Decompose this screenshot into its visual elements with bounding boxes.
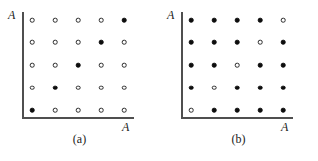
open-marker xyxy=(53,40,58,45)
open-marker xyxy=(122,108,127,113)
open-marker xyxy=(30,18,35,23)
filled-marker xyxy=(258,108,263,113)
open-marker xyxy=(281,18,286,23)
filled-marker xyxy=(189,63,194,68)
panel-caption-a: (a) xyxy=(0,133,159,145)
filled-marker xyxy=(122,18,127,23)
filled-marker xyxy=(53,85,58,90)
filled-marker xyxy=(189,40,194,45)
x-axis-label: A xyxy=(122,121,129,133)
filled-marker xyxy=(212,63,217,68)
filled-marker xyxy=(30,108,35,113)
filled-marker xyxy=(235,40,240,45)
open-marker xyxy=(53,63,58,68)
filled-marker xyxy=(212,18,217,23)
filled-marker xyxy=(281,40,286,45)
plot-area-a xyxy=(22,12,134,118)
open-marker xyxy=(235,63,240,68)
panel-caption-b: (b) xyxy=(159,133,318,145)
y-axis-label: A xyxy=(8,9,15,21)
open-marker xyxy=(53,108,58,113)
filled-marker xyxy=(212,40,217,45)
filled-marker xyxy=(281,63,286,68)
panel-b: A A (b) xyxy=(159,0,318,161)
x-axis-label: A xyxy=(281,121,288,133)
filled-marker xyxy=(258,63,263,68)
filled-marker xyxy=(281,85,286,90)
filled-marker xyxy=(189,85,194,90)
open-marker xyxy=(76,18,81,23)
filled-marker xyxy=(76,63,81,68)
open-marker xyxy=(76,40,81,45)
two-panel-scatter-figure: A A (a) A A (b) xyxy=(0,0,318,161)
panel-a: A A (a) xyxy=(0,0,159,161)
open-marker xyxy=(122,40,127,45)
open-marker xyxy=(99,18,104,23)
y-axis-label: A xyxy=(167,9,174,21)
open-marker xyxy=(212,85,217,90)
open-marker xyxy=(122,85,127,90)
open-marker xyxy=(76,85,81,90)
open-marker xyxy=(53,18,58,23)
filled-marker xyxy=(281,108,286,113)
filled-marker xyxy=(212,108,217,113)
plot-area-b xyxy=(181,12,293,118)
open-marker xyxy=(99,108,104,113)
open-marker xyxy=(76,108,81,113)
open-marker xyxy=(30,63,35,68)
filled-marker xyxy=(235,85,240,90)
filled-marker xyxy=(258,85,263,90)
open-marker xyxy=(99,85,104,90)
open-marker xyxy=(122,63,127,68)
open-marker xyxy=(30,40,35,45)
open-marker xyxy=(30,85,35,90)
open-marker xyxy=(258,40,263,45)
filled-marker xyxy=(99,40,104,45)
filled-marker xyxy=(189,18,194,23)
filled-marker xyxy=(235,108,240,113)
filled-marker xyxy=(258,18,263,23)
open-marker xyxy=(99,63,104,68)
filled-marker xyxy=(235,18,240,23)
open-marker xyxy=(189,108,194,113)
